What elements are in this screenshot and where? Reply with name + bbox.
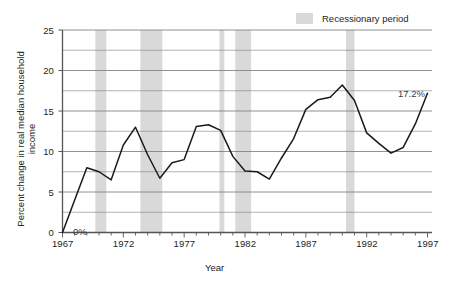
chart-legend: Recessionary period: [296, 13, 409, 24]
annotation-start-value: 0%: [73, 226, 87, 237]
x-tick-label-1997: 1997: [408, 238, 448, 249]
x-tick-label-1987: 1987: [286, 238, 326, 249]
y-axis-title: Percent change in real median household …: [15, 39, 37, 239]
x-tick-label-1992: 1992: [347, 238, 387, 249]
x-axis-title: Year: [205, 262, 224, 273]
chart-figure: 0 5 10 15 20 25 1967 1972 1977 1982 1987…: [0, 0, 458, 287]
x-tick-label-1982: 1982: [225, 238, 265, 249]
recession-band-swatch: [296, 13, 313, 24]
x-tick-label-1972: 1972: [104, 238, 144, 249]
x-tick-label-1967: 1967: [43, 238, 83, 249]
x-tick-label-1977: 1977: [164, 238, 204, 249]
annotation-end-value: 17.2%: [398, 88, 425, 99]
x-minor-tick-group: [63, 233, 428, 238]
y-tick-label-25: 25: [32, 25, 54, 36]
legend-label-recession: Recessionary period: [322, 13, 409, 24]
